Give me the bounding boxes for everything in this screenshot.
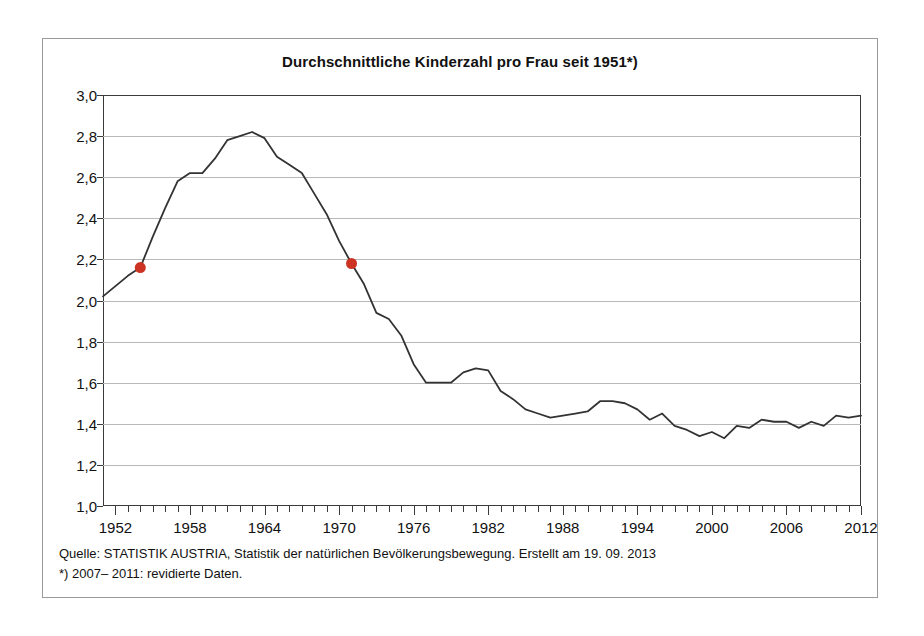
- highlight-markers: [135, 258, 357, 273]
- x-axis-tick-label: 1970: [309, 519, 369, 536]
- x-axis-minor-tick: [675, 506, 676, 512]
- x-axis-minor-tick: [439, 506, 440, 512]
- x-axis-minor-tick: [824, 506, 825, 512]
- x-axis-major-tick: [115, 506, 116, 515]
- x-axis-minor-tick: [277, 506, 278, 512]
- x-axis-minor-tick: [389, 506, 390, 512]
- x-axis-minor-tick: [252, 506, 253, 512]
- x-axis-minor-tick: [600, 506, 601, 512]
- x-axis-tick-label: 2000: [682, 519, 742, 536]
- y-axis-tick-label: 1,6: [51, 374, 97, 391]
- x-axis-minor-tick: [178, 506, 179, 512]
- x-axis-major-tick: [190, 506, 191, 515]
- x-axis-minor-tick: [202, 506, 203, 512]
- x-axis-major-tick: [861, 506, 862, 515]
- x-axis-minor-tick: [513, 506, 514, 512]
- x-axis-tick-label: 1964: [235, 519, 295, 536]
- x-axis-tick-label: 1982: [458, 519, 518, 536]
- x-axis-minor-tick: [227, 506, 228, 512]
- x-axis-minor-tick: [662, 506, 663, 512]
- x-axis-major-tick: [265, 506, 266, 515]
- x-axis-minor-tick: [588, 506, 589, 512]
- source-line: Quelle: STATISTIK AUSTRIA, Statistik der…: [59, 544, 859, 564]
- x-axis-minor-tick: [525, 506, 526, 512]
- x-axis-minor-tick: [476, 506, 477, 512]
- x-axis-minor-tick: [650, 506, 651, 512]
- chart-figure: Durchschnittliche Kinderzahl pro Frau se…: [42, 38, 878, 598]
- x-axis-major-tick: [712, 506, 713, 515]
- y-axis-tick-label: 1,8: [51, 333, 97, 350]
- x-axis-minor-tick: [401, 506, 402, 512]
- y-axis-tick-label: 1,4: [51, 415, 97, 432]
- x-axis-minor-tick: [749, 506, 750, 512]
- x-axis-tick-label: 2012: [831, 519, 891, 536]
- x-axis-minor-tick: [289, 506, 290, 512]
- y-axis-tick-label: 1,0: [51, 498, 97, 515]
- x-axis-minor-tick: [352, 506, 353, 512]
- x-axis-minor-tick: [724, 506, 725, 512]
- x-axis-tick-label: 2006: [756, 519, 816, 536]
- chart-title: Durchschnittliche Kinderzahl pro Frau se…: [43, 53, 877, 70]
- x-axis-minor-tick: [538, 506, 539, 512]
- x-axis-major-tick: [414, 506, 415, 515]
- x-axis-tick-label: 1988: [533, 519, 593, 536]
- x-axis-minor-tick: [550, 506, 551, 512]
- x-axis-minor-tick: [625, 506, 626, 512]
- x-axis-minor-tick: [302, 506, 303, 512]
- x-axis-minor-tick: [128, 506, 129, 512]
- x-axis-minor-tick: [687, 506, 688, 512]
- y-axis-tick-label: 1,2: [51, 456, 97, 473]
- x-axis-minor-tick: [153, 506, 154, 512]
- x-axis-minor-tick: [575, 506, 576, 512]
- plot-area: 3,02,82,62,42,22,01,81,61,41,21,0 195219…: [103, 95, 861, 506]
- y-axis-tick-label: 2,6: [51, 169, 97, 186]
- x-axis-tick-label: 1976: [384, 519, 444, 536]
- x-axis-minor-tick: [314, 506, 315, 512]
- x-axis-minor-tick: [699, 506, 700, 512]
- x-axis-minor-tick: [762, 506, 763, 512]
- x-axis-minor-tick: [240, 506, 241, 512]
- x-axis-minor-tick: [327, 506, 328, 512]
- x-axis-minor-tick: [215, 506, 216, 512]
- x-axis-minor-tick: [463, 506, 464, 512]
- y-axis-tick-label: 3,0: [51, 87, 97, 104]
- x-axis-minor-tick: [737, 506, 738, 512]
- x-axis-minor-tick: [451, 506, 452, 512]
- series-line: [103, 95, 861, 506]
- x-axis-tick-label: 1958: [160, 519, 220, 536]
- x-axis-tick-label: 1994: [607, 519, 667, 536]
- x-axis-minor-tick: [612, 506, 613, 512]
- fertility-line: [103, 132, 861, 438]
- y-axis-tick-label: 2,0: [51, 292, 97, 309]
- x-axis-tick-label: 1952: [85, 519, 145, 536]
- x-axis-minor-tick: [849, 506, 850, 512]
- x-axis-minor-tick: [799, 506, 800, 512]
- x-axis-major-tick: [786, 506, 787, 515]
- x-axis-major-tick: [339, 506, 340, 515]
- x-axis-minor-tick: [364, 506, 365, 512]
- x-axis-major-tick: [637, 506, 638, 515]
- x-axis-major-tick: [563, 506, 564, 515]
- x-axis-minor-tick: [501, 506, 502, 512]
- x-axis-minor-tick: [376, 506, 377, 512]
- x-axis-minor-tick: [426, 506, 427, 512]
- x-axis-minor-tick: [165, 506, 166, 512]
- data-point-marker: [346, 258, 357, 269]
- x-axis-minor-tick: [774, 506, 775, 512]
- data-point-marker: [135, 262, 146, 273]
- footnote-line: *) 2007– 2011: revidierte Daten.: [59, 564, 859, 584]
- y-axis-tick-label: 2,8: [51, 128, 97, 145]
- y-axis-tick-label: 2,2: [51, 251, 97, 268]
- footer-note: Quelle: STATISTIK AUSTRIA, Statistik der…: [59, 544, 859, 583]
- y-axis-tick: [97, 506, 103, 507]
- x-axis-major-tick: [488, 506, 489, 515]
- x-axis-minor-tick: [836, 506, 837, 512]
- x-axis-minor-tick: [140, 506, 141, 512]
- x-axis-minor-tick: [811, 506, 812, 512]
- y-axis-tick-label: 2,4: [51, 210, 97, 227]
